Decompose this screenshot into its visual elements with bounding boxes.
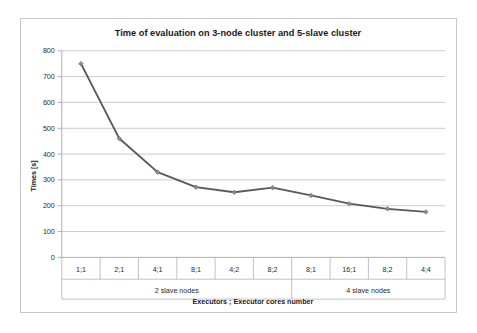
y-tick-label-0: 0	[51, 254, 55, 262]
category-label-0: 1;1	[76, 266, 86, 274]
group-band-row: 2 slave nodes4 slave nodes	[62, 279, 445, 299]
y-tick-label-700: 700	[43, 73, 55, 81]
y-tick-label-100: 100	[43, 228, 55, 236]
y-axis-title: Times [s]	[30, 160, 38, 191]
group-label-0: 2 slave nodes	[155, 287, 200, 295]
data-point-16-1-7	[347, 201, 352, 206]
y-axis-tick-labels: 0100200300400500600700800	[43, 47, 55, 262]
chart-title-group: Time of evaluation on 3-node cluster and…	[115, 28, 362, 38]
chart-figure: Time of evaluation on 3-node cluster and…	[20, 18, 457, 313]
data-series-time-of-evaluation	[79, 61, 428, 214]
group-label-1: 4 slave nodes	[346, 287, 391, 295]
y-tick-label-500: 500	[43, 125, 55, 133]
line-chart: Time of evaluation on 3-node cluster and…	[21, 19, 456, 312]
y-tick-label-600: 600	[43, 99, 55, 107]
y-tick-label-200: 200	[43, 202, 55, 210]
series-line-time-of-evaluation	[81, 64, 426, 212]
data-point-8-2-5	[270, 185, 275, 190]
category-label-7: 16;1	[342, 266, 356, 274]
category-label-3: 8;1	[191, 266, 201, 274]
y-axis-tick-marks	[58, 51, 62, 258]
category-label-6: 8;1	[306, 266, 316, 274]
category-label-2: 4;1	[153, 266, 163, 274]
data-point-8-2-8	[385, 207, 390, 212]
x-axis-title-group: Executors ; Executor cores number	[193, 298, 314, 306]
y-tick-label-300: 300	[43, 176, 55, 184]
series-markers	[79, 61, 428, 214]
category-label-8: 8;2	[383, 266, 393, 274]
data-point-4-4-9	[424, 210, 429, 215]
y-tick-label-400: 400	[43, 151, 55, 159]
category-label-9: 4;4	[421, 266, 431, 274]
category-label-1: 2;1	[114, 266, 124, 274]
chart-title: Time of evaluation on 3-node cluster and…	[115, 28, 362, 38]
data-point-8-1-6	[309, 193, 314, 198]
y-tick-label-800: 800	[43, 47, 55, 55]
data-point-4-2-4	[232, 190, 237, 195]
y-axis-title-group: Times [s]	[30, 160, 38, 191]
x-axis-title: Executors ; Executor cores number	[193, 298, 314, 306]
category-label-5: 8;2	[268, 266, 278, 274]
category-label-4: 4;2	[229, 266, 239, 274]
